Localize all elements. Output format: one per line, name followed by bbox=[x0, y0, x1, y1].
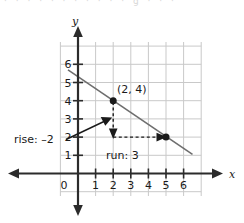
data-point-5-2 bbox=[163, 134, 170, 141]
x-tick-label-4: 4 bbox=[145, 179, 152, 192]
x-tick-label-6: 6 bbox=[180, 179, 187, 192]
y-tick-label-3: 3 bbox=[65, 113, 72, 126]
rise-label: rise: –2 bbox=[14, 133, 54, 146]
origin-label: 0 bbox=[61, 179, 68, 192]
x-tick-label-5: 5 bbox=[163, 179, 170, 192]
run-label: run: 3 bbox=[106, 149, 139, 162]
y-tick-label-6: 6 bbox=[65, 58, 72, 71]
point-label-2-4: (2, 4) bbox=[117, 83, 147, 96]
coordinate-plane-figure: y x 0 1 2 3 4 5 6 1 2 3 4 5 6 (2, 4) ris… bbox=[0, 0, 244, 223]
y-axis-label: y bbox=[71, 15, 79, 28]
data-point-2-4 bbox=[110, 97, 117, 104]
rise-leader-arrow bbox=[66, 117, 112, 139]
y-tick-label-5: 5 bbox=[65, 77, 72, 90]
x-tick-label-1: 1 bbox=[92, 179, 99, 192]
y-tick-label-1: 1 bbox=[65, 149, 72, 162]
x-axis-label: x bbox=[229, 168, 236, 181]
y-tick-label-2: 2 bbox=[65, 131, 72, 144]
x-tick-label-2: 2 bbox=[110, 179, 117, 192]
x-tick-label-3: 3 bbox=[127, 179, 134, 192]
y-tick-label-4: 4 bbox=[65, 95, 72, 108]
